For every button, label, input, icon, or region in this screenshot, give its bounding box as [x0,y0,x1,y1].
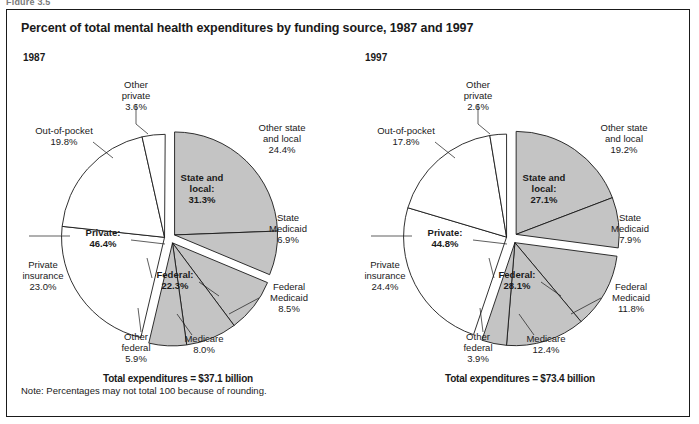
figure-title: Percent of total mental health expenditu… [21,21,473,35]
pie-slice-label-state-medicaid: State [277,212,299,223]
pie-group-label-state-and-local: 31.3% [189,194,216,205]
pie-slice-label-private-insurance: insurance [22,270,63,281]
pie-slice-label-private-insurance: 23.0% [30,281,57,292]
pie-group-label-state-and-local: State and [523,172,566,183]
pie-slice-label-other-private: Other [124,79,148,90]
pie-slice-label-federal-medicaid: 8.5% [278,303,300,314]
pie-slice-label-private-insurance: Private [370,259,400,270]
pie-slice-label-other-federal: 5.9% [125,353,147,364]
pie-slice-label-other-private: private [464,90,493,101]
pie-group-label-private: 44.8% [432,238,459,249]
pie-slice-label-other-private: private [122,90,151,101]
pie-group-label-state-and-local: 27.1% [531,194,558,205]
pie-slice-label-out-of-pocket: Out-of-pocket [377,125,435,136]
pie-slice-label-federal-medicaid: Medicaid [270,292,308,303]
pie-slice-label-federal-medicaid: Federal [273,281,305,292]
pie-slice-label-other-state-and-local: 24.4% [269,144,296,155]
pie-slice-label-other-federal: federal [121,342,150,353]
total-expenditures-1997: Total expenditures = $73.4 billion [349,373,691,384]
total-expenditures-1987: Total expenditures = $37.1 billion [7,373,349,384]
chart-panel-1997: 1997 Otherprivate2.6%Out-of-pocket17.8%P… [349,46,691,406]
pie-chart-1997: Otherprivate2.6%Out-of-pocket17.8%Privat… [349,46,691,376]
pie-slice-label-state-medicaid: 6.9% [277,234,299,245]
pie-slice-label-other-federal: federal [463,342,492,353]
pie-group-label-state-and-local: local: [532,183,557,194]
pie-slice-label-federal-medicaid: Medicaid [612,292,650,303]
pie-group-label-federal: 22.3% [162,280,189,291]
chart-panel-1987: 1987 Otherprivate3.6%Out-of-pocket19.8%P… [7,46,349,406]
pie-slice-label-state-medicaid: Medicaid [611,223,649,234]
pie-slice-label-other-federal: Other [124,331,148,342]
pie-group-label-federal: Federal: [157,269,194,280]
pie-slice-label-other-federal: 3.9% [467,353,489,364]
pie-group-label-private: 46.4% [90,238,117,249]
pie-group-label-state-and-local: local: [190,183,215,194]
pie-slice-label-private-insurance: insurance [364,270,405,281]
pie-group-label-federal: Federal: [499,269,536,280]
pie-group-label-private: Private: [428,227,463,238]
pie-slice-label-out-of-pocket: 17.8% [393,136,420,147]
pie-slice-label-state-medicaid: State [619,212,641,223]
pie-slice-label-other-state-and-local: Other state [259,122,306,133]
figure-number-caption: Figure 3.5 [6,0,51,5]
pie-slice-label-other-federal: Other [466,331,490,342]
chart-note: Note: Percentages may not total 100 beca… [21,385,267,396]
pie-slice-label-medicare: Medicare [526,333,565,344]
pie-slice-label-other-state-and-local: and local [605,133,643,144]
pie-slice-label-private-insurance: Private [28,259,58,270]
pie-slice-label-out-of-pocket: Out-of-pocket [35,125,93,136]
pie-slice-label-medicare: 12.4% [533,344,560,355]
pie-slice-label-medicare: Medicare [184,333,223,344]
pie-slice-label-federal-medicaid: 11.8% [618,303,645,314]
pie-slice-label-other-state-and-local: and local [263,133,301,144]
pie-group-label-state-and-local: State and [181,172,224,183]
figure-box: Percent of total mental health expenditu… [6,9,690,417]
pie-slice-label-state-medicaid: Medicaid [269,223,307,234]
pie-slice-label-state-medicaid: 7.9% [619,234,641,245]
pie-group-federal [482,243,617,346]
pie-slice-label-other-state-and-local: 19.2% [611,144,638,155]
pie-chart-1987: Otherprivate3.6%Out-of-pocket19.8%Privat… [7,46,349,376]
pie-slice-label-other-private: Other [466,79,490,90]
pie-group-label-private: Private: [86,227,121,238]
pie-slice-label-out-of-pocket: 19.8% [51,136,78,147]
pie-slice-label-federal-medicaid: Federal [615,281,647,292]
pie-group-label-federal: 28.1% [504,280,531,291]
pie-slice-label-medicare: 8.0% [193,344,215,355]
pie-slice-label-other-state-and-local: Other state [601,122,648,133]
pie-slice-label-private-insurance: 24.4% [372,281,399,292]
